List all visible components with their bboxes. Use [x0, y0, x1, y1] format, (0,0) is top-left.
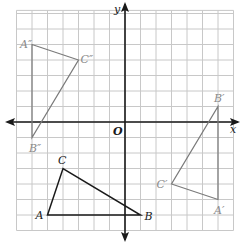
- vertex-label: B: [144, 210, 153, 223]
- x-axis-label: x: [230, 123, 237, 136]
- coordinate-diagram: xyOABCA′B′C′A″B″C″: [0, 0, 246, 249]
- vertex-label: C″: [81, 53, 94, 66]
- vertex-label: C: [58, 154, 67, 167]
- vertex-label: B″: [28, 142, 42, 155]
- vertex-label: C′: [157, 178, 168, 191]
- vertex-label: A: [35, 209, 44, 222]
- labels: xyOABCA′B′C′A″B″C″: [19, 3, 237, 223]
- y-axis-label: y: [113, 3, 121, 16]
- vertex-label: B′: [213, 92, 225, 105]
- vertex-label: A′: [213, 204, 225, 217]
- vertex-label: A″: [19, 38, 33, 51]
- origin-label: O: [113, 125, 123, 138]
- axes: [5, 2, 240, 242]
